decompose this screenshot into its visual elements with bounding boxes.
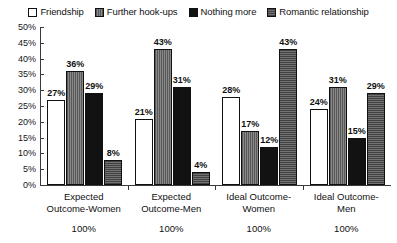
bar-slot: 21% bbox=[135, 27, 153, 185]
bar-value-label: 43% bbox=[154, 38, 172, 47]
y-axis: 50%45%40%35%30%25%20%15%10%5%0% bbox=[0, 27, 36, 185]
x-axis-category-name-line: Expected bbox=[141, 191, 201, 203]
legend-swatch-icon-friendship bbox=[28, 8, 37, 17]
bar-value-label: 29% bbox=[85, 82, 103, 91]
x-axis-category-name-line: Expected bbox=[47, 191, 121, 203]
bar[interactable] bbox=[310, 109, 328, 185]
bar-value-label: 24% bbox=[310, 98, 328, 107]
bar-slot: 12% bbox=[260, 27, 278, 185]
x-axis-category-name-line: Outcome-Men bbox=[141, 203, 201, 215]
bar[interactable] bbox=[367, 93, 385, 185]
y-axis-tick-label: 25% bbox=[18, 102, 36, 111]
bar-value-label: 29% bbox=[367, 82, 385, 91]
legend-label-friendship: Friendship bbox=[40, 7, 83, 17]
y-axis-tick-label: 20% bbox=[18, 117, 36, 126]
legend-swatch-icon-further-hook-ups bbox=[95, 8, 104, 17]
x-axis-category-total: 100% bbox=[159, 223, 183, 234]
bar[interactable] bbox=[154, 49, 172, 185]
bar-value-label: 4% bbox=[194, 161, 207, 170]
bar-group-bars: 24%31%15%29% bbox=[304, 27, 392, 185]
bar-value-label: 31% bbox=[329, 76, 347, 85]
bar-slot: 31% bbox=[329, 27, 347, 185]
x-axis-category: Ideal Outcome-Women100% bbox=[215, 191, 303, 243]
bar-value-label: 8% bbox=[107, 149, 120, 158]
bar-value-label: 12% bbox=[260, 136, 278, 145]
bar[interactable] bbox=[241, 131, 259, 185]
bar-group: 24%31%15%29% bbox=[304, 27, 392, 185]
y-axis-tick-label: 30% bbox=[18, 86, 36, 95]
bar-slot: 28% bbox=[222, 27, 240, 185]
chart-legend: Friendship Further hook-ups Nothing more… bbox=[0, 4, 397, 20]
legend-label-further-hook-ups: Further hook-ups bbox=[107, 7, 178, 17]
legend-label-romantic-relationship: Romantic relationship bbox=[279, 7, 368, 17]
x-axis-category: ExpectedOutcome-Men100% bbox=[128, 191, 216, 243]
x-axis-category-name-line: Outcome-Women bbox=[47, 203, 121, 215]
x-axis-group-tick bbox=[303, 185, 304, 190]
legend-item-friendship: Friendship bbox=[28, 7, 83, 17]
bar[interactable] bbox=[66, 71, 84, 185]
bar[interactable] bbox=[329, 87, 347, 185]
x-axis-category-labels: ExpectedOutcome-Women100%ExpectedOutcome… bbox=[40, 191, 390, 243]
bar-groups: 27%36%29%8%21%43%31%4%28%17%12%43%24%31%… bbox=[41, 27, 391, 185]
bar-group-bars: 28%17%12%43% bbox=[216, 27, 304, 185]
bar-group-bars: 27%36%29%8% bbox=[41, 27, 129, 185]
legend-label-nothing-more: Nothing more bbox=[201, 7, 257, 17]
bar-chart: Friendship Further hook-ups Nothing more… bbox=[0, 0, 397, 243]
legend-swatch-icon-nothing-more bbox=[189, 8, 198, 17]
bar-group: 21%43%31%4% bbox=[129, 27, 217, 185]
bar-slot: 36% bbox=[66, 27, 84, 185]
bar[interactable] bbox=[279, 49, 297, 185]
bar-value-label: 43% bbox=[279, 38, 297, 47]
x-axis-category: ExpectedOutcome-Women100% bbox=[40, 191, 128, 243]
x-axis-category-name: Ideal Outcome-Men bbox=[314, 191, 379, 214]
y-axis-tick-label: 0% bbox=[23, 181, 36, 190]
y-axis-tick-label: 5% bbox=[23, 165, 36, 174]
x-axis-category-total: 100% bbox=[334, 223, 358, 234]
bar-slot: 15% bbox=[348, 27, 366, 185]
bar-slot: 17% bbox=[241, 27, 259, 185]
bar[interactable] bbox=[47, 100, 65, 185]
x-axis-category-name-line: Ideal Outcome- bbox=[314, 191, 379, 203]
bar[interactable] bbox=[192, 172, 210, 185]
bar-value-label: 28% bbox=[222, 86, 240, 95]
bar-slot: 29% bbox=[85, 27, 103, 185]
bar-slot: 27% bbox=[47, 27, 65, 185]
bar-value-label: 27% bbox=[47, 89, 65, 98]
bar-slot: 43% bbox=[279, 27, 297, 185]
x-axis-category: Ideal Outcome-Men100% bbox=[303, 191, 391, 243]
bar-value-label: 15% bbox=[348, 127, 366, 136]
legend-swatch-icon-romantic-relationship bbox=[267, 8, 276, 17]
bar-slot: 8% bbox=[104, 27, 122, 185]
x-axis-group-tick bbox=[128, 185, 129, 190]
bar-group: 27%36%29%8% bbox=[41, 27, 129, 185]
bar-group: 28%17%12%43% bbox=[216, 27, 304, 185]
bar[interactable] bbox=[260, 147, 278, 185]
bar[interactable] bbox=[348, 138, 366, 185]
legend-item-romantic-relationship: Romantic relationship bbox=[267, 7, 368, 17]
y-axis-tick-label: 45% bbox=[18, 38, 36, 47]
y-axis-tick-label: 35% bbox=[18, 70, 36, 79]
bar-slot: 43% bbox=[154, 27, 172, 185]
x-axis-category-name: Ideal Outcome-Women bbox=[226, 191, 291, 214]
bar-slot: 4% bbox=[192, 27, 210, 185]
y-axis-tick-label: 10% bbox=[18, 149, 36, 158]
bar-group-bars: 21%43%31%4% bbox=[129, 27, 217, 185]
y-axis-tick-label: 15% bbox=[18, 133, 36, 142]
bar[interactable] bbox=[173, 87, 191, 185]
plot-area: 27%36%29%8%21%43%31%4%28%17%12%43%24%31%… bbox=[40, 27, 391, 186]
bar[interactable] bbox=[222, 97, 240, 185]
y-axis-tick-label: 50% bbox=[18, 23, 36, 32]
y-axis-tick-label: 40% bbox=[18, 54, 36, 63]
bar-slot: 24% bbox=[310, 27, 328, 185]
x-axis-category-name-line: Men bbox=[314, 203, 379, 215]
bar-value-label: 36% bbox=[66, 60, 84, 69]
bar-slot: 31% bbox=[173, 27, 191, 185]
x-axis-category-name-line: Ideal Outcome- bbox=[226, 191, 291, 203]
bar[interactable] bbox=[135, 119, 153, 185]
bar[interactable] bbox=[104, 160, 122, 185]
bar[interactable] bbox=[85, 93, 103, 185]
bar-value-label: 21% bbox=[135, 108, 153, 117]
bar-value-label: 17% bbox=[241, 120, 259, 129]
x-axis-category-name: ExpectedOutcome-Men bbox=[141, 191, 201, 214]
legend-item-further-hook-ups: Further hook-ups bbox=[95, 7, 178, 17]
